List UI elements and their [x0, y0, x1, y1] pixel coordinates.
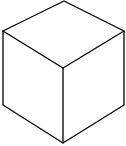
cube-diagram: [0, 0, 126, 146]
cube-icon: [0, 0, 126, 146]
cube-edge-right-center: [63, 31, 124, 68]
cube-edge-left-center: [3, 31, 63, 68]
